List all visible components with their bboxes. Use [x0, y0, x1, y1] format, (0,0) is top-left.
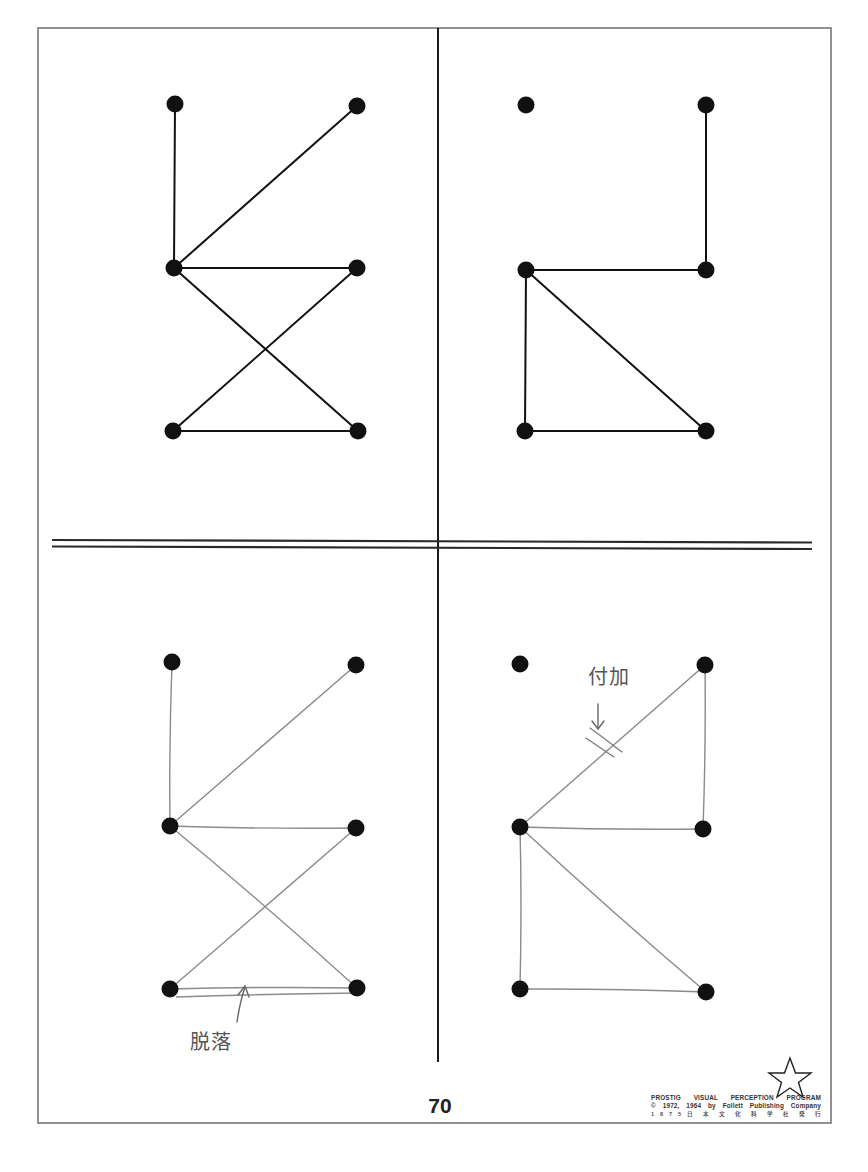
- copyright-line: © 1972, 1964 by Follett Publishing Compa…: [651, 1102, 821, 1110]
- publisher-credit: PROSTIG VISUAL PERCEPTION PROGRAM © 1972…: [651, 1094, 821, 1118]
- connecting-line: [703, 665, 705, 829]
- omission-annotation: 脱落: [190, 1026, 232, 1055]
- dot-icon: [349, 980, 366, 997]
- dot-icon: [518, 97, 535, 114]
- dot-icon: [348, 657, 365, 674]
- connecting-line: [520, 827, 703, 829]
- connecting-line: [170, 826, 356, 828]
- omission-arrow-icon: [237, 986, 249, 1022]
- page-frame: [38, 28, 831, 1123]
- connecting-line: [520, 989, 706, 992]
- connecting-line: [170, 828, 356, 989]
- extra-pencil-line: [176, 993, 360, 997]
- connecting-line: [174, 106, 357, 268]
- addition-arrow-icon: [592, 704, 604, 729]
- model-figure-right: [517, 97, 715, 440]
- dot-icon: [165, 423, 182, 440]
- dot-icon: [349, 260, 366, 277]
- dot-icon: [517, 423, 534, 440]
- dot-icon: [349, 98, 366, 115]
- program-title: PROSTIG VISUAL PERCEPTION PROGRAM: [651, 1094, 821, 1102]
- child-copy-right: [512, 656, 715, 1001]
- addition-annotation: 付加: [588, 661, 630, 690]
- dot-icon: [166, 260, 183, 277]
- connecting-line: [170, 987, 357, 989]
- dot-icon: [512, 981, 529, 998]
- connecting-line: [525, 270, 526, 431]
- connecting-line: [520, 827, 706, 992]
- connecting-line: [174, 104, 175, 268]
- dot-icon: [164, 654, 181, 671]
- model-figure-left: [165, 96, 367, 440]
- japanese-publisher-line: 1 8 7 5 日 本 文 化 科 学 社 発 行: [651, 1110, 821, 1118]
- horizontal-double-divider: [52, 540, 812, 549]
- connecting-line: [520, 827, 521, 989]
- dot-icon: [518, 262, 535, 279]
- dot-icon: [512, 819, 529, 836]
- dot-icon: [512, 656, 529, 673]
- dot-icon: [698, 984, 715, 1001]
- star-outline-icon: [769, 1058, 811, 1097]
- page-number: 70: [380, 1094, 500, 1118]
- dot-icon: [162, 818, 179, 835]
- connecting-line: [170, 826, 357, 988]
- dot-icon: [350, 423, 367, 440]
- dot-icon: [698, 423, 715, 440]
- connecting-line: [170, 665, 356, 826]
- dot-icon: [162, 981, 179, 998]
- dot-icon: [167, 96, 184, 113]
- dot-icon: [698, 97, 715, 114]
- worksheet-canvas: [0, 0, 868, 1172]
- connecting-line: [170, 662, 172, 826]
- dot-icon: [697, 657, 714, 674]
- dot-icon: [695, 821, 712, 838]
- dot-icon: [348, 820, 365, 837]
- connecting-line: [526, 270, 706, 431]
- dot-icon: [698, 262, 715, 279]
- child-copy-left: [162, 654, 366, 998]
